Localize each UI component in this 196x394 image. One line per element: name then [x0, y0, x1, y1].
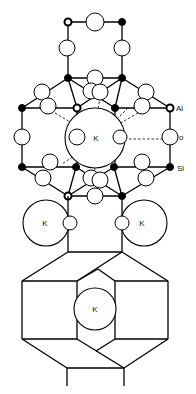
oxygen-atom [162, 129, 178, 145]
oxygen-atom [134, 98, 150, 114]
silicon-atom [19, 164, 26, 171]
zeolite-structure-diagram: K [0, 0, 196, 394]
oxygen-atom [92, 84, 108, 100]
silicon-atom [19, 105, 26, 112]
silicon-atom [111, 164, 118, 171]
aluminum-atom [74, 105, 81, 112]
si-label: Si [177, 164, 184, 173]
aluminum-atom [167, 105, 174, 112]
aluminum-atom [65, 19, 72, 26]
oxygen-atom [115, 216, 129, 230]
oxygen-atom [35, 170, 51, 186]
oxygen-atom [86, 13, 104, 31]
oxygen-atom [40, 98, 56, 114]
k-left-label: K [42, 219, 48, 228]
oxygen-atom [14, 129, 30, 145]
k-center-label: K [93, 134, 99, 143]
oxygen-atom [138, 84, 154, 100]
potassium-left: K [23, 200, 69, 246]
oxygen-atom [87, 188, 103, 204]
o-label: o [179, 133, 184, 142]
silicon-atom [167, 164, 174, 171]
oxygen-atom [42, 154, 58, 170]
potassium-bottom: K [74, 288, 116, 330]
silicon-atom [112, 105, 119, 112]
silicon-atom [65, 75, 72, 82]
oxygen-atom [114, 40, 130, 56]
al-label: Al [176, 104, 183, 113]
silicon-atom [73, 164, 80, 171]
oxygen-atom [113, 130, 127, 144]
oxygen-atom [138, 170, 154, 186]
oxygen-atom [63, 216, 77, 230]
k-bottom-label: K [92, 305, 98, 314]
k-right-label: K [139, 219, 145, 228]
oxygen-atom [134, 154, 150, 170]
oxygen-atom [92, 172, 108, 188]
oxygen-atom [69, 129, 85, 145]
oxygen-atom [59, 40, 75, 56]
silicon-atom [119, 19, 126, 26]
silicon-atom [119, 75, 126, 82]
